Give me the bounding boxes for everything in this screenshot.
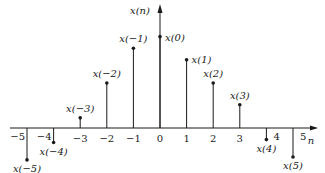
stem-marker: [78, 116, 82, 120]
y-axis-arrow-icon: [158, 4, 163, 13]
tick-label: 3: [237, 133, 243, 144]
point-label: x(−2): [93, 68, 121, 79]
point-label: x(5): [283, 160, 303, 171]
stem-marker: [185, 58, 189, 62]
chart-svg: x(n)n−5x(−5)−4x(−4)−3x(−3)−2x(−2)−1x(−1)…: [0, 0, 325, 173]
stem-marker: [158, 35, 162, 39]
point-label: x(4): [256, 143, 276, 154]
point-label: x(−3): [66, 103, 94, 114]
point-label: x(2): [203, 68, 223, 79]
stem-marker: [238, 103, 242, 107]
stem-marker: [291, 155, 295, 159]
stem-marker: [52, 141, 56, 145]
point-label: x(0): [165, 32, 185, 43]
x-axis-arrow-icon: [310, 126, 318, 131]
tick-label: −4: [37, 131, 52, 142]
tick-label: 0: [157, 133, 163, 144]
tick-label: −1: [126, 133, 141, 144]
x-axis-label: n: [308, 135, 314, 146]
tick-label: 1: [183, 133, 189, 144]
stem-marker: [25, 158, 29, 162]
stem-marker: [265, 138, 269, 142]
point-label: x(−5): [13, 163, 41, 173]
tick-label: 5: [300, 131, 306, 142]
point-label: x(1): [192, 54, 212, 65]
tick-label: −2: [99, 133, 114, 144]
tick-label: 4: [273, 131, 279, 142]
stem-marker: [105, 81, 109, 85]
y-axis-label: x(n): [130, 5, 150, 16]
point-label: x(3): [230, 90, 250, 101]
point-label: x(−4): [40, 146, 68, 157]
stem-plot: x(n)n−5x(−5)−4x(−4)−3x(−3)−2x(−2)−1x(−1)…: [0, 0, 325, 173]
tick-label: −5: [10, 131, 25, 142]
stem-marker: [211, 81, 215, 85]
stem-marker: [132, 46, 136, 50]
point-label: x(−1): [119, 33, 147, 44]
tick-label: 2: [210, 133, 216, 144]
tick-label: −3: [73, 133, 88, 144]
